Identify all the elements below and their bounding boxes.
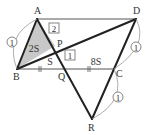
geometry-diagram: 1 1 1 2 1 2S S 8S A D B C Q P R: [0, 0, 152, 135]
ratio-box-pq: 1: [65, 50, 75, 61]
ratio-box-ap: 2: [49, 23, 59, 34]
point-label-c: C: [116, 68, 123, 79]
point-label-p: P: [57, 38, 63, 49]
svg-text:1: 1: [68, 51, 73, 61]
area-label-8s: 8S: [91, 56, 102, 67]
svg-text:2: 2: [52, 24, 57, 34]
ratio-circle-dc: 1: [131, 42, 141, 53]
point-label-q: Q: [58, 71, 66, 82]
svg-text:1: 1: [116, 93, 121, 103]
area-label-2s: 2S: [29, 43, 40, 54]
area-label-s: S: [47, 56, 53, 67]
point-label-a: A: [34, 5, 42, 16]
point-label-r: R: [88, 122, 95, 133]
svg-text:1: 1: [10, 38, 15, 48]
point-label-b: B: [13, 71, 20, 82]
point-label-d: D: [133, 5, 140, 16]
svg-text:1: 1: [134, 43, 139, 53]
ratio-circle-ab: 1: [7, 37, 17, 48]
ratio-circle-cr: 1: [113, 92, 123, 103]
